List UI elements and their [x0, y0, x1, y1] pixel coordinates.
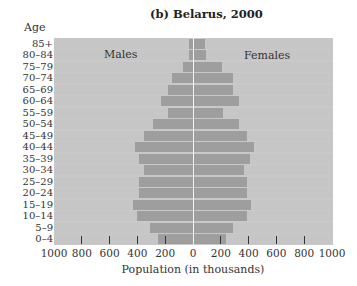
age-group-label: 65–69	[23, 84, 53, 95]
x-tick	[304, 236, 305, 244]
x-tick-label: 600	[266, 247, 286, 259]
female-bar	[193, 142, 254, 152]
age-group-label: 50–54	[23, 118, 53, 129]
x-tick-label: 800	[72, 247, 92, 259]
age-group-label: 55–59	[23, 107, 53, 118]
male-bar	[133, 200, 193, 210]
male-bar	[150, 223, 193, 233]
x-tick-label: 200	[211, 247, 231, 259]
female-bar	[193, 223, 233, 233]
age-group-label: 20–24	[23, 187, 53, 198]
male-bar	[161, 96, 193, 106]
female-bar	[193, 234, 226, 244]
x-tick	[220, 236, 221, 244]
female-bar	[193, 119, 239, 129]
age-group-label: 40–44	[23, 141, 53, 152]
x-tick-label: 600	[100, 247, 120, 259]
x-tick	[81, 236, 82, 244]
age-group-label: 25–29	[23, 176, 53, 187]
male-bar	[135, 142, 193, 152]
age-group-label: 80–84	[23, 49, 53, 60]
male-bar	[172, 73, 193, 83]
female-bar	[193, 177, 247, 187]
female-bar	[193, 165, 244, 175]
age-group-label: 15–19	[23, 199, 53, 210]
x-tick	[276, 236, 277, 244]
x-axis-title: Population (in thousands)	[122, 263, 265, 276]
x-tick-label: 400	[239, 247, 259, 259]
age-group-label: 30–34	[23, 164, 53, 175]
age-group-label: 75–79	[23, 61, 53, 72]
age-group-label: 0–4	[35, 233, 53, 244]
male-bar	[158, 234, 193, 244]
x-tick	[248, 236, 249, 244]
male-bar	[153, 119, 193, 129]
age-group-label: 85+	[32, 38, 53, 49]
age-group-label: 60–64	[23, 95, 53, 106]
x-tick	[109, 236, 110, 244]
female-bar	[193, 200, 251, 210]
female-bar	[193, 62, 222, 72]
female-bar	[193, 211, 247, 221]
female-bar	[193, 96, 239, 106]
females-label: Females	[244, 49, 290, 62]
male-bar	[137, 211, 193, 221]
zero-line	[193, 38, 194, 245]
female-bar	[193, 39, 205, 49]
age-group-label: 45–49	[23, 130, 53, 141]
male-bar	[139, 154, 193, 164]
age-group-label: 10–14	[23, 210, 53, 221]
x-tick	[165, 236, 166, 244]
x-tick-label: 200	[155, 247, 175, 259]
x-tick-label: 1000	[41, 247, 68, 259]
x-tick-label: 1000	[319, 247, 346, 259]
male-bar	[144, 131, 193, 141]
age-group-label: 70–74	[23, 72, 53, 83]
male-bar	[139, 188, 193, 198]
female-bar	[193, 73, 233, 83]
chart-title: (b) Belarus, 2000	[150, 7, 260, 21]
x-tick-label: 800	[294, 247, 314, 259]
female-bar	[193, 85, 233, 95]
female-bar	[193, 50, 206, 60]
age-group-label: 5–9	[35, 222, 53, 233]
female-bar	[193, 188, 247, 198]
male-bar	[144, 165, 193, 175]
x-tick-label: 0	[190, 247, 197, 259]
age-group-label: 35–39	[23, 153, 53, 164]
males-label: Males	[104, 48, 138, 61]
x-tick-label: 400	[127, 247, 147, 259]
female-bar	[193, 108, 223, 118]
female-bar	[193, 131, 247, 141]
male-bar	[139, 177, 193, 187]
x-tick	[137, 236, 138, 244]
female-bar	[193, 154, 250, 164]
male-bar	[168, 85, 193, 95]
plot-area	[54, 38, 333, 245]
y-axis-title: Age	[24, 21, 46, 34]
male-bar	[168, 108, 193, 118]
